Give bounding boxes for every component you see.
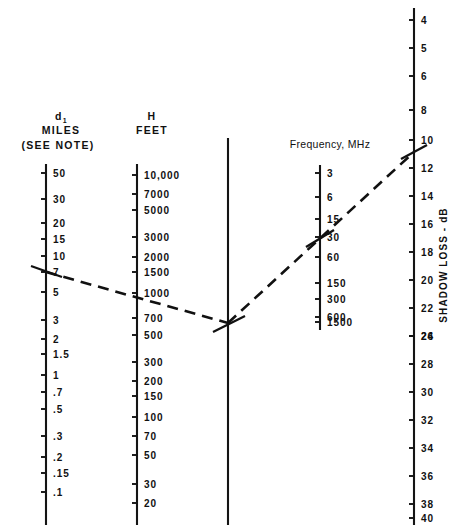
tick-label: 34 [421,443,434,454]
tick-label: 1000 [144,288,170,299]
axis-shadow-loss: 456810121416182022242628303234363840 SHA… [409,8,449,525]
tick-label: 10 [421,135,434,146]
axis-h-ticks: 10,0007000500030002000150010007005003002… [132,170,180,509]
axis-h-units: FEET [136,124,168,136]
tick-label: .7 [53,387,63,398]
tick-label: 16 [421,219,434,230]
axis-d1-units: MILES [42,124,81,136]
tick-label: 7000 [144,189,170,200]
tick-label: 70 [144,431,157,442]
tick-label: 38 [421,499,434,510]
tick-label: 40 [421,513,434,524]
tick-label: 4 [421,15,427,26]
tick-label: 50 [144,450,157,461]
tick-label: 3 [53,315,59,326]
axis-h-title: H [148,110,157,122]
tick-label: 100 [144,412,163,423]
tick-label: 14 [421,191,434,202]
tick-label: 300 [144,357,163,368]
tick-label: .15 [53,468,70,479]
tick-label: 1500 [327,317,353,328]
tick-label: 1.5 [53,349,70,360]
tick-label: 18 [421,247,434,258]
axis-d1-note: (SEE NOTE) [21,139,94,151]
tick-label: 10 [53,251,66,262]
tick-label: 26 [421,331,434,342]
tick-label: 1500 [144,267,170,278]
tick-label: 6 [327,192,333,203]
nomogram-canvas: d1 MILES (SEE NOTE) 503020151075321.51.7… [0,0,457,529]
tick-label: 500 [144,330,163,341]
tick-label: 8 [421,105,427,116]
tick-label: 20 [144,498,157,509]
tick-label: 20 [53,218,66,229]
tick-label: 5 [421,43,427,54]
tick-label: 1 [53,370,59,381]
tick-label: 30 [144,479,157,490]
tick-label: 30 [53,194,66,205]
tick-label: 36 [421,471,434,482]
tick-label: .5 [53,404,63,415]
tick-label: 700 [144,313,163,324]
tick-label: 60 [327,252,340,263]
tick-label: 10,000 [144,170,180,181]
axis-d1: d1 MILES (SEE NOTE) 503020151075321.51.7… [21,110,94,525]
tick-label: 300 [327,294,346,305]
axis-d1-title: d1 [55,110,67,124]
axis-shadow-loss-ticks: 456810121416182022242628303234363840 [409,15,434,524]
tick-label: 2000 [144,252,170,263]
tick-label: 200 [144,376,163,387]
tick-label: 5 [53,287,59,298]
tick-label: 3000 [144,232,170,243]
tick-label: .2 [53,452,63,463]
tick-label: 32 [421,415,434,426]
tick-label: 2 [53,334,59,345]
tick-label: 3 [327,168,333,179]
tick-label: .3 [53,431,63,442]
tick-label: 15 [53,234,66,245]
shadow-loss-nomogram: d1 MILES (SEE NOTE) 503020151075321.51.7… [0,0,457,529]
axis-shadow-loss-title: SHADOW LOSS - dB [438,207,449,322]
tick-label: 30 [421,387,434,398]
tick-label: 150 [144,391,163,402]
tick-label: .1 [53,487,63,498]
tick-label: 22 [421,303,434,314]
tick-label: 50 [53,168,66,179]
tick-label: 5000 [144,205,170,216]
tick-label: 150 [327,278,346,289]
tick-label: 28 [421,359,434,370]
axis-frequency: Frequency, MHz 361530601503006001500 [290,138,370,330]
tick-label: 20 [421,275,434,286]
tick-label: 12 [421,163,434,174]
axis-h: H FEET 10,000700050003000200015001000700… [132,110,180,525]
tick-label: 6 [421,71,427,82]
axis-frequency-title: Frequency, MHz [290,138,370,150]
